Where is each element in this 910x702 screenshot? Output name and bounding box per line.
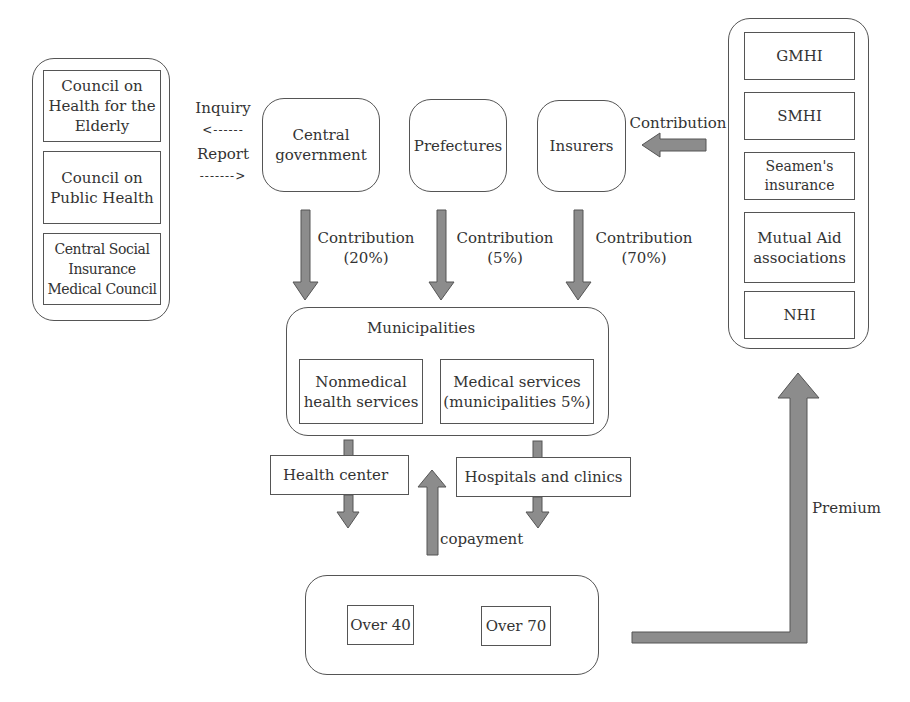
arrow-down-insurers (566, 210, 591, 300)
health-center-label: Health center (283, 465, 388, 485)
contribution-central-text: Contribution (316, 228, 416, 248)
council-csimc-label: Central Social Insurance Medical Council (44, 239, 160, 299)
council-central-social-insurance: Central Social Insurance Medical Council (43, 233, 161, 305)
scheme-gmhi-label: GMHI (776, 46, 822, 66)
report-arrow: -------> (188, 166, 258, 186)
scheme-seamens: Seamen's insurance (744, 152, 855, 200)
over-40-label: Over 40 (350, 615, 411, 635)
arrow-down-central (293, 210, 318, 300)
insurers-box: Insurers (537, 100, 626, 192)
scheme-mutual-aid-label: Mutual Aid associations (745, 228, 854, 268)
health-center-box: Health center (270, 455, 409, 495)
municipalities-title: Municipalities (286, 318, 556, 338)
over-40-box: Over 40 (347, 605, 414, 645)
council-elderly: Council on Health for the Elderly (43, 70, 161, 142)
scheme-gmhi: GMHI (744, 32, 855, 80)
arrow-left-contribution (642, 133, 706, 157)
council-public-health: Council on Public Health (43, 151, 161, 224)
prefectures-box: Prefectures (409, 99, 507, 192)
nonmedical-services-box: Nonmedical health services (299, 359, 423, 424)
arrow-down-hospitals (526, 497, 549, 528)
copayment-label: copayment (440, 529, 530, 549)
arrow-premium (632, 373, 819, 643)
premium-label: Premium (812, 498, 892, 518)
contribution-insurers-text: Contribution (594, 228, 694, 248)
hospitals-clinics-label: Hospitals and clinics (465, 467, 623, 487)
over-70-box: Over 70 (481, 606, 551, 646)
arrow-down-prefectures (429, 210, 454, 300)
scheme-mutual-aid: Mutual Aid associations (744, 212, 855, 283)
insurer-contribution-label: Contribution (628, 113, 728, 133)
central-government-label: Central government (263, 125, 379, 165)
council-elderly-label: Council on Health for the Elderly (44, 76, 160, 136)
inquiry-arrow: <------ (188, 120, 258, 140)
contribution-central-label: Contribution (20%) (316, 228, 416, 268)
scheme-nhi: NHI (744, 291, 855, 339)
medical-services-box: Medical services (municipalities 5%) (440, 359, 594, 424)
contribution-insurers-pct: (70%) (594, 248, 694, 268)
medical-services-label: Medical services (municipalities 5%) (441, 372, 593, 412)
arrow-down-health-center (337, 495, 359, 528)
over-70-label: Over 70 (486, 616, 547, 636)
inquiry-label: Inquiry (188, 98, 258, 118)
insurers-label: Insurers (550, 136, 614, 156)
council-public-health-label: Council on Public Health (44, 168, 160, 208)
nonmedical-services-label: Nonmedical health services (300, 372, 422, 412)
scheme-smhi-label: SMHI (777, 106, 822, 126)
contribution-insurers-label: Contribution (70%) (594, 228, 694, 268)
central-government-box: Central government (262, 98, 380, 192)
scheme-smhi: SMHI (744, 92, 855, 140)
scheme-nhi-label: NHI (783, 305, 815, 325)
contribution-prefectures-label: Contribution (5%) (455, 228, 555, 268)
contribution-prefectures-text: Contribution (455, 228, 555, 248)
contribution-central-pct: (20%) (316, 248, 416, 268)
report-label: Report (188, 144, 258, 164)
hospitals-clinics-box: Hospitals and clinics (456, 457, 631, 497)
scheme-seamens-label: Seamen's insurance (745, 157, 854, 195)
prefectures-label: Prefectures (414, 136, 502, 156)
contribution-prefectures-pct: (5%) (455, 248, 555, 268)
